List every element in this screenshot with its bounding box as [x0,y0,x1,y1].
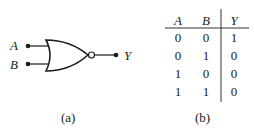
caption-b: (b) [195,111,210,124]
cell: 0 [198,31,214,44]
caption-a: (a) [61,111,75,124]
cell: 0 [226,67,242,80]
cell: 0 [170,31,186,44]
output-y-label: Y [124,49,131,62]
cell: 1 [198,49,214,62]
cell: 1 [198,85,214,98]
cell: 0 [198,67,214,80]
header-a: A [170,14,186,27]
cell: 1 [226,31,242,44]
cell: 0 [170,49,186,62]
nor-gate-body [46,40,88,71]
header-y: Y [226,14,242,27]
input-b-terminal [26,62,31,67]
cell: 0 [226,85,242,98]
cell: 1 [170,67,186,80]
cell: 1 [170,85,186,98]
cell: 0 [226,49,242,62]
input-a-terminal [26,44,31,49]
input-b-label: B [10,58,18,71]
nor-gate-diagram [0,0,254,135]
output-terminal [114,53,119,58]
inversion-bubble [89,52,95,58]
header-b: B [198,14,214,27]
input-a-label: A [10,39,18,52]
